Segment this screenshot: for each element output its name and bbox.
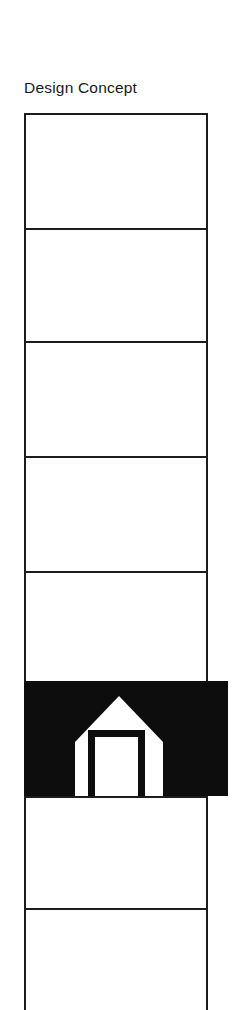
page-canvas: Design Concept <box>0 0 234 1010</box>
black-highlight-band <box>24 681 228 796</box>
table-row[interactable] <box>26 458 206 573</box>
table-row[interactable] <box>26 573 206 683</box>
table-row[interactable] <box>26 910 206 1010</box>
table-row[interactable] <box>26 798 206 910</box>
table-row[interactable] <box>26 115 206 230</box>
table-row[interactable] <box>26 230 206 343</box>
design-concept-table <box>24 113 208 1010</box>
page-title: Design Concept <box>24 78 137 98</box>
table-row[interactable] <box>26 343 206 458</box>
house-icon <box>75 696 163 796</box>
